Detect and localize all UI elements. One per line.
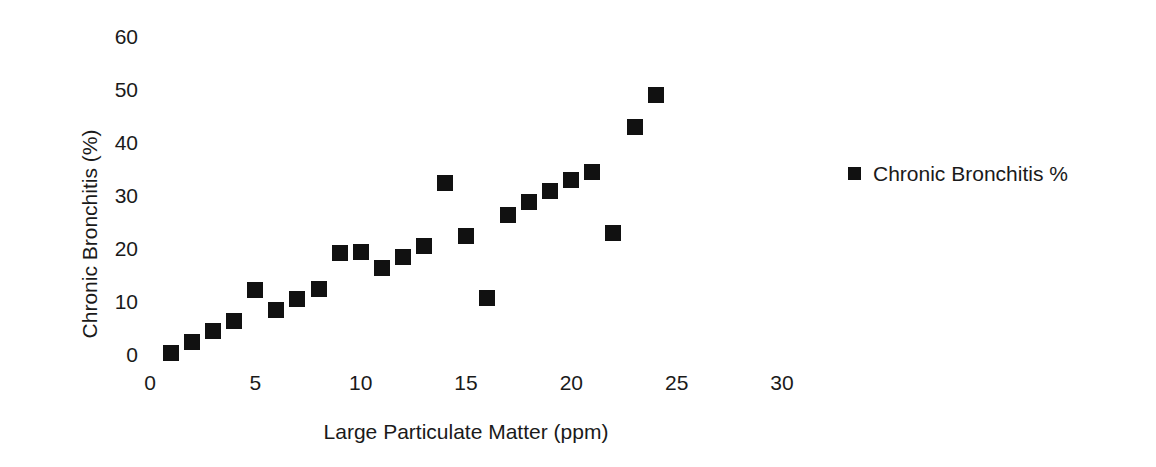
chart-legend: Chronic Bronchitis % bbox=[848, 163, 1068, 184]
x-tick-label: 10 bbox=[341, 372, 381, 393]
data-point-marker bbox=[437, 175, 453, 191]
x-tick-label: 15 bbox=[446, 372, 486, 393]
data-point-marker bbox=[648, 87, 664, 103]
x-axis-title: Large Particulate Matter (ppm) bbox=[150, 420, 782, 444]
data-point-marker bbox=[605, 225, 621, 241]
data-point-marker bbox=[500, 207, 516, 223]
data-point-marker bbox=[584, 164, 600, 180]
data-point-marker bbox=[416, 238, 432, 254]
data-point-marker bbox=[374, 260, 390, 276]
data-point-marker bbox=[627, 119, 643, 135]
square-marker-icon bbox=[848, 167, 861, 180]
data-point-marker bbox=[205, 323, 221, 339]
x-tick-label: 30 bbox=[762, 372, 802, 393]
data-point-marker bbox=[311, 281, 327, 297]
data-point-marker bbox=[289, 291, 305, 307]
x-tick-label: 5 bbox=[235, 372, 275, 393]
data-point-marker bbox=[353, 244, 369, 260]
data-point-marker bbox=[542, 183, 558, 199]
data-point-marker bbox=[184, 334, 200, 350]
data-point-marker bbox=[268, 302, 284, 318]
plot-area bbox=[150, 37, 782, 355]
x-tick-label: 0 bbox=[130, 372, 170, 393]
data-point-marker bbox=[479, 290, 495, 306]
data-point-marker bbox=[226, 313, 242, 329]
data-point-marker bbox=[163, 345, 179, 361]
data-point-marker bbox=[395, 249, 411, 265]
x-tick-label: 20 bbox=[551, 372, 591, 393]
y-tick-label: 60 bbox=[90, 26, 138, 47]
legend-label-chronic-bronchitis: Chronic Bronchitis % bbox=[873, 163, 1068, 184]
data-point-marker bbox=[563, 172, 579, 188]
scatter-chart-figure: 0102030405060 051015202530 Chronic Bronc… bbox=[0, 0, 1156, 467]
data-point-marker bbox=[521, 194, 537, 210]
data-point-marker bbox=[458, 228, 474, 244]
x-tick-label: 25 bbox=[657, 372, 697, 393]
y-axis-title: Chronic Bronchitis (%) bbox=[78, 84, 102, 384]
data-point-marker bbox=[247, 282, 263, 298]
data-point-marker bbox=[332, 245, 348, 261]
